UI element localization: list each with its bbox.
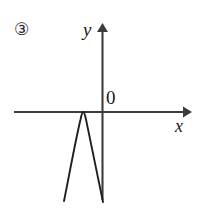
x-axis-label: x <box>175 117 183 135</box>
parabola-curve-group <box>64 112 103 202</box>
y-axis-arrowhead <box>97 23 108 32</box>
origin-label: 0 <box>106 88 116 107</box>
x-axis-arrowhead <box>183 107 192 118</box>
parabola-figure: ③ y x 0 <box>0 0 204 212</box>
parabola-path <box>64 112 103 202</box>
coordinate-plane-svg <box>0 0 204 212</box>
item-number-marker: ③ <box>14 21 29 38</box>
y-axis-label: y <box>83 20 91 39</box>
